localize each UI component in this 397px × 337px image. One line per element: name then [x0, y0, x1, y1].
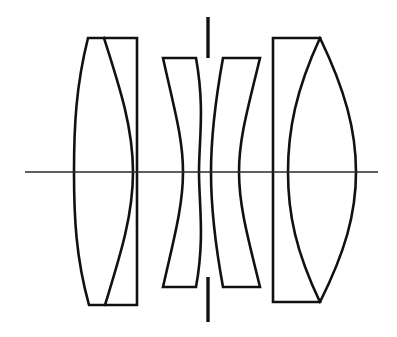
lens-diagram	[0, 0, 397, 337]
lens-cross-section-svg	[0, 0, 397, 337]
rear-cemented-doublet	[273, 38, 356, 302]
rear-doublet-outline	[273, 38, 356, 302]
